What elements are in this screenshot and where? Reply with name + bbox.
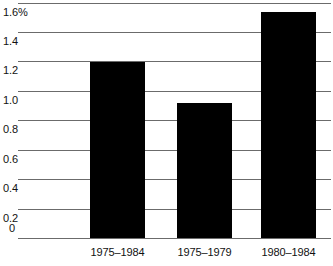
- bar-chart: 1.6% 1.4 1.2 1.0 0.8 0.6 0.4 0.2 0 1975–…: [0, 0, 333, 266]
- ytick-label-1.2: 1.2: [3, 64, 18, 76]
- xtick-label-1975-1979: 1975–1979: [162, 246, 247, 259]
- ytick-label-1.0: 1.0: [3, 94, 18, 106]
- xtick-label-1980-1984: 1980–1984: [246, 246, 331, 259]
- ytick-label-0.6: 0.6: [3, 153, 18, 165]
- gridline-1.6: [18, 3, 331, 4]
- gridline-zero-baseline: [18, 238, 331, 239]
- bar-1975-1984: [90, 62, 145, 238]
- plot-area: 1.6% 1.4 1.2 1.0 0.8 0.6 0.4 0.2 0 1975–…: [0, 0, 333, 266]
- bar-1980-1984: [261, 12, 316, 238]
- xtick-label-1975-1984: 1975–1984: [75, 246, 160, 259]
- ytick-label-0.4: 0.4: [3, 182, 18, 194]
- ytick-label-0.8: 0.8: [3, 123, 18, 135]
- bar-1975-1979: [177, 103, 232, 238]
- ytick-label-0: 0: [9, 222, 15, 234]
- ytick-label-1.4: 1.4: [3, 35, 18, 47]
- ytick-label-1.6: 1.6%: [3, 6, 28, 18]
